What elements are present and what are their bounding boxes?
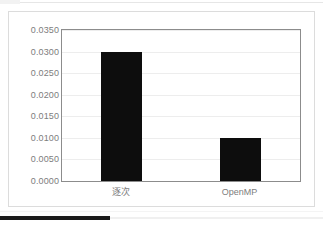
bar [101, 52, 142, 181]
page-bottom-shadow [0, 211, 323, 212]
bottom-scrollbar-track[interactable] [110, 217, 323, 219]
gridline [62, 95, 300, 96]
page-top-rule-accent [0, 0, 20, 4]
y-axis-tick-label: 0.0250 [11, 69, 59, 78]
y-axis-tick-labels: 0.00000.00500.01000.01500.02000.02500.03… [9, 29, 59, 182]
gridline [62, 73, 300, 74]
plot-frame [61, 29, 301, 182]
x-axis-tick-label: OpenMP [180, 186, 299, 198]
y-axis-tick-label: 0.0100 [11, 134, 59, 143]
gridline [62, 116, 300, 117]
page-top-rule [0, 2, 323, 3]
gridline [62, 30, 300, 31]
gridline [62, 52, 300, 53]
gridline [62, 138, 300, 139]
plot-area [62, 30, 300, 181]
gridline [62, 159, 300, 160]
chart-card: 0.00000.00500.01000.01500.02000.02500.03… [8, 11, 315, 207]
bar [220, 138, 261, 181]
y-axis-tick-label: 0.0200 [11, 91, 59, 100]
y-axis-tick-label: 0.0000 [11, 177, 59, 186]
y-axis-tick-label: 0.0350 [11, 26, 59, 35]
x-axis-category-labels: 逐次OpenMP [61, 186, 301, 202]
x-axis-tick-label: 逐次 [61, 186, 180, 198]
y-axis-tick-label: 0.0300 [11, 48, 59, 57]
y-axis-tick-label: 0.0050 [11, 155, 59, 164]
y-axis-tick-label: 0.0150 [11, 112, 59, 121]
bottom-scrollbar-thumb[interactable] [0, 216, 110, 220]
